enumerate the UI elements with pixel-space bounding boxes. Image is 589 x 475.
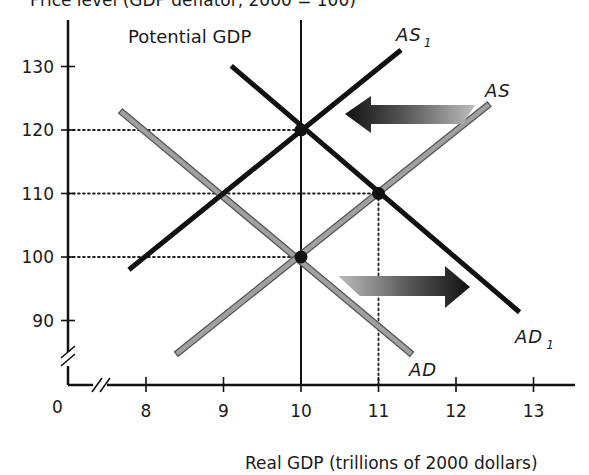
y-axis-title: Price level (GDP deflator, 2000 = 100) — [30, 0, 356, 10]
x-tick-label: 13 — [523, 401, 545, 421]
x-tick-label: 11 — [368, 401, 390, 421]
origin-label: 0 — [52, 397, 63, 417]
ad-curve — [123, 113, 410, 352]
equilibrium-point — [295, 124, 308, 137]
chart-canvas: Price level (GDP deflator, 2000 = 100) 9… — [0, 0, 589, 475]
x-tick-label: 12 — [445, 401, 467, 421]
as1-curve — [129, 50, 401, 270]
equilibrium-point — [372, 187, 385, 200]
y-tick-label: 90 — [32, 311, 54, 331]
y-tick-label: 100 — [22, 247, 54, 267]
as1-label: AS1 — [395, 24, 432, 50]
potential-gdp-label: Potential GDP — [128, 26, 251, 47]
ad1-label: AD1 — [514, 326, 555, 352]
x-axis-title: Real GDP (trillions of 2000 dollars) — [245, 453, 538, 473]
reference-lines — [68, 130, 379, 385]
curves — [123, 50, 520, 352]
as-curve — [179, 106, 487, 352]
x-tick-label: 10 — [290, 401, 312, 421]
x-tick-label: 9 — [218, 401, 229, 421]
x-axis-break-mark — [92, 378, 102, 392]
ad-label: AD — [408, 359, 437, 380]
y-tick-label: 110 — [22, 184, 54, 204]
y-tick-label: 130 — [22, 57, 54, 77]
ad-shift-right-arrow — [338, 266, 470, 308]
equilibrium-point — [295, 251, 308, 264]
x-tick-label: 8 — [141, 401, 152, 421]
y-tick-label: 120 — [22, 120, 54, 140]
as-label: AS — [484, 80, 511, 101]
